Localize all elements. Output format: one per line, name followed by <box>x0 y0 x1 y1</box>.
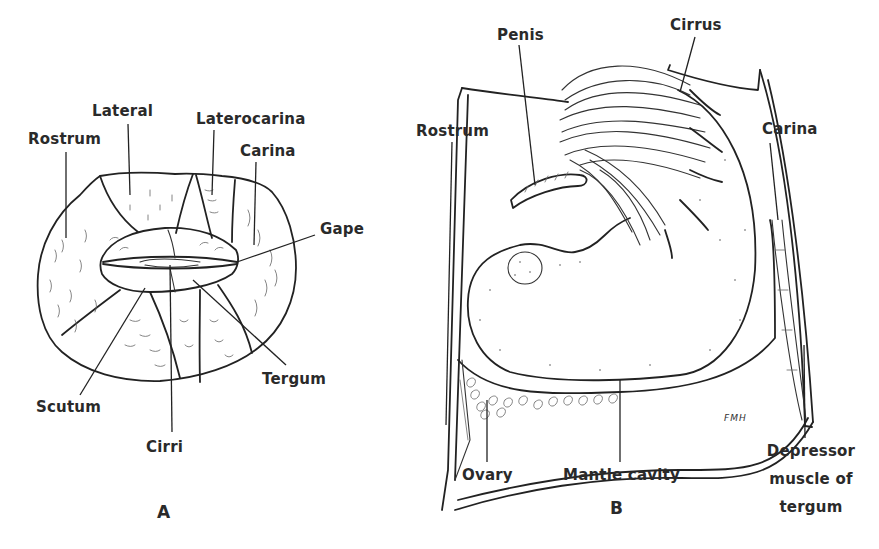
label-a-gape: Gape <box>320 220 364 238</box>
label-a-rostrum: Rostrum <box>28 130 101 148</box>
label-b-ovary: Ovary <box>462 466 513 484</box>
label-b-mantle-cavity: Mantle cavity <box>563 466 680 484</box>
label-a-carina: Carina <box>240 142 296 160</box>
panel-a-drawing <box>38 173 296 382</box>
label-a-scutum: Scutum <box>36 398 101 416</box>
label-a-cirri: Cirri <box>146 438 183 456</box>
label-b-depressor-line1: Depressor <box>758 442 864 460</box>
label-b-penis: Penis <box>497 26 544 44</box>
panel-b-leaders <box>446 37 805 462</box>
artist-signature: FMH <box>724 413 747 423</box>
label-b-carina: Carina <box>762 120 818 138</box>
panel-label-b: B <box>610 499 623 517</box>
label-a-tergum: Tergum <box>262 370 326 388</box>
label-a-laterocarina: Laterocarina <box>196 110 305 128</box>
label-b-rostrum: Rostrum <box>416 122 489 140</box>
label-b-depressor-line3: tergum <box>758 498 864 516</box>
panel-label-a: A <box>157 503 170 521</box>
label-b-depressor-muscle: Depressor muscle of tergum <box>758 442 864 516</box>
barnacle-anatomy-figure <box>0 0 879 549</box>
label-a-lateral: Lateral <box>92 102 153 120</box>
label-b-depressor-line2: muscle of <box>758 470 864 488</box>
label-b-cirrus: Cirrus <box>670 16 722 34</box>
